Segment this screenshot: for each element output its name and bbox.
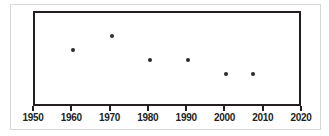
x-axis-tick-label: 1960 [61, 112, 82, 124]
x-axis-tick [70, 106, 72, 111]
data-points-layer [35, 13, 299, 104]
x-axis-tick-label: 1950 [22, 112, 43, 124]
x-axis-tick [147, 106, 149, 111]
data-point [224, 72, 228, 76]
data-point [186, 58, 190, 62]
scatter-chart-figure: 19501960197019801990200020102020 [0, 0, 329, 136]
x-axis-tick [262, 106, 264, 111]
x-axis-tick [185, 106, 187, 111]
x-axis-tick [32, 106, 34, 111]
x-axis-tick-label: 1970 [99, 112, 120, 124]
x-axis-tick-label: 2020 [290, 112, 311, 124]
x-axis-tick [109, 106, 111, 111]
x-axis-tick-label: 2010 [252, 112, 273, 124]
data-point [71, 48, 75, 52]
x-axis-tick-label: 2000 [214, 112, 235, 124]
x-axis-tick [300, 106, 302, 111]
data-point [251, 72, 255, 76]
plot-area-frame [33, 11, 301, 106]
x-axis-tick [223, 106, 225, 111]
data-point [110, 34, 114, 38]
x-axis-tick-label: 1980 [137, 112, 158, 124]
x-axis-tick-label: 1990 [176, 112, 197, 124]
data-point [148, 58, 152, 62]
